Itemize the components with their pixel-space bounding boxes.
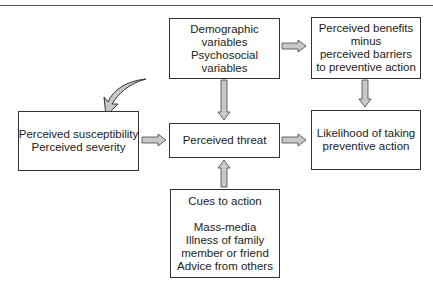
- box-line: Illness of family: [186, 234, 265, 247]
- box-line: perceived barriers: [320, 48, 412, 61]
- box-line: Perceived benefits: [319, 22, 414, 35]
- box-line: Demographic: [190, 23, 258, 36]
- threat-box: Perceived threat: [169, 123, 280, 158]
- box-line: to preventive action: [316, 61, 416, 74]
- arrow-demographic-to-benefits: [282, 40, 306, 52]
- arrow-threat-to-likelihood: [282, 134, 306, 146]
- box-line: Psychosocial: [191, 49, 258, 62]
- box-line: Perceived susceptibility: [19, 128, 139, 141]
- likelihood-box: Likelihood of taking preventive action: [311, 110, 421, 170]
- box-line: Mass-media: [194, 221, 257, 234]
- box-line: Advice from others: [177, 260, 273, 273]
- demographic-box: Demographic variables Psychosocial varia…: [169, 18, 280, 79]
- box-line: member or friend: [181, 247, 269, 260]
- box-line: Likelihood of taking: [317, 127, 415, 140]
- box-line: minus: [351, 35, 382, 48]
- cues-box: Cues to action Mass-media Illness of fam…: [170, 189, 280, 278]
- box-line: preventive action: [323, 140, 410, 153]
- arrow-susceptibility-to-threat: [142, 134, 166, 146]
- box-line: Perceived threat: [183, 134, 267, 147]
- box-line: variables: [201, 36, 247, 49]
- benefits-box: Perceived benefits minus perceived barri…: [311, 17, 421, 79]
- box-line: Perceived severity: [32, 141, 126, 154]
- arrow-demographic-to-threat: [218, 80, 230, 120]
- arrow-benefits-to-likelihood: [359, 80, 371, 107]
- cues-heading: Cues to action: [188, 195, 262, 208]
- box-line: variables: [201, 62, 247, 75]
- arrow-cues-to-threat: [218, 160, 230, 187]
- susceptibility-box: Perceived susceptibility Perceived sever…: [18, 111, 139, 171]
